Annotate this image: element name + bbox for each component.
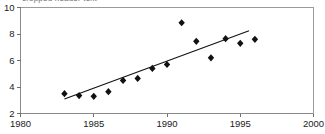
x-tick-label: 1990 [156, 118, 177, 129]
x-tick-label: 1980 [10, 118, 31, 129]
axis-ticks [17, 8, 314, 118]
trend-line [64, 31, 249, 99]
data-point-marker [135, 75, 141, 82]
data-point-marker [178, 19, 184, 26]
chart-container: cropped header text 24681019801985199019… [0, 0, 325, 134]
trend-line-segment [64, 31, 249, 99]
y-tick-label: 10 [4, 2, 15, 13]
x-tick-label: 1995 [230, 118, 251, 129]
data-point-marker [193, 38, 199, 45]
x-tick-label: 1985 [83, 118, 104, 129]
y-tick-label: 8 [9, 28, 14, 39]
data-points [61, 19, 258, 100]
data-point-marker [222, 35, 228, 42]
data-point-marker [91, 93, 97, 100]
scatter-plot: 24681019801985199019952000 [0, 0, 325, 134]
data-point-marker [237, 40, 243, 47]
y-tick-label: 4 [9, 81, 14, 92]
axis-tick-labels: 24681019801985199019952000 [4, 2, 324, 129]
y-tick-label: 6 [9, 55, 14, 66]
data-point-marker [105, 88, 111, 95]
data-point-marker [208, 54, 214, 61]
x-tick-label: 2000 [303, 118, 324, 129]
data-point-marker [252, 36, 258, 43]
data-point-marker [61, 90, 67, 97]
